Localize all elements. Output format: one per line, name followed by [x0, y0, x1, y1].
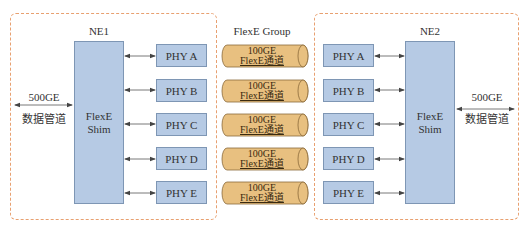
ne1-client-label: 数据管道: [18, 110, 70, 126]
channel-label: FlexE通道: [240, 91, 284, 101]
flexe-channel-5: 100GEFlexE通道: [221, 181, 310, 205]
ne2-shim-line2: Shim: [417, 123, 443, 136]
ne1-phy-a: PHY A: [156, 44, 207, 67]
ne1-flexe-shim: FlexEShim: [74, 41, 124, 204]
flexe-channel-3: 100GEFlexE通道: [221, 113, 310, 137]
ne2-phy-c: PHY C: [323, 113, 374, 136]
flexe-channel-1: 100GEFlexE通道: [221, 44, 310, 68]
ne1-phy-b: PHY B: [156, 79, 207, 102]
ne1-shim-line2: Shim: [86, 123, 112, 136]
ne1-client-rate: 500GE: [22, 91, 66, 103]
ne2-flexe-shim: FlexEShim: [405, 41, 455, 204]
ne2-phy-b: PHY B: [323, 79, 374, 102]
ne2-shim-line1: FlexE: [417, 110, 443, 123]
flexe-channel-4: 100GEFlexE通道: [221, 147, 310, 171]
ne2-client-rate: 500GE: [462, 91, 512, 103]
ne1-phy-e: PHY E: [156, 181, 207, 204]
ne2-phy-e: PHY E: [323, 181, 374, 204]
channel-label: FlexE通道: [240, 56, 284, 66]
ne1-phy-d: PHY D: [156, 147, 207, 170]
flexe-group-title: FlexE Group: [221, 25, 303, 37]
ne1-shim-line1: FlexE: [86, 110, 112, 123]
ne2-phy-a: PHY A: [323, 44, 374, 67]
ne2-client-label: 数据管道: [460, 110, 514, 126]
flexe-channel-2: 100GEFlexE通道: [221, 79, 310, 103]
ne2-phy-d: PHY D: [323, 147, 374, 170]
ne2-title: NE2: [405, 25, 455, 37]
ne1-phy-c: PHY C: [156, 113, 207, 136]
channel-label: FlexE通道: [240, 159, 284, 169]
channel-label: FlexE通道: [240, 193, 284, 203]
channel-label: FlexE通道: [240, 125, 284, 135]
ne1-title: NE1: [74, 25, 124, 37]
